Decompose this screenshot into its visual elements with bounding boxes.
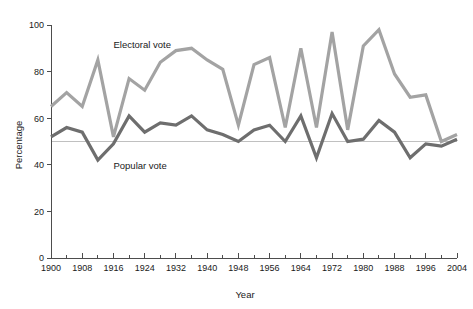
line-chart: 020406080100 190019081916192419321940194…: [0, 0, 473, 309]
x-axis: 1900190819161924193219401948195619641972…: [41, 253, 467, 273]
y-tick-label: 0: [39, 253, 44, 263]
series-label-electoral-vote: Electoral vote: [113, 39, 171, 50]
x-tick-label: 1908: [72, 263, 92, 273]
y-tick-label: 100: [29, 20, 44, 30]
x-axis-title: Year: [235, 289, 254, 300]
x-tick-label: 1916: [103, 263, 123, 273]
y-tick-label: 20: [34, 207, 44, 217]
x-tick-label: 2004: [447, 263, 467, 273]
y-tick-label: 40: [34, 160, 44, 170]
x-tick-label: 1956: [260, 263, 280, 273]
x-tick-label: 1996: [416, 263, 436, 273]
series-label-popular-vote: Popular vote: [113, 160, 166, 171]
x-tick-label: 1900: [41, 263, 61, 273]
x-tick-label: 1932: [166, 263, 186, 273]
y-axis-title: Percentage: [13, 121, 24, 170]
x-tick-label: 1988: [385, 263, 405, 273]
y-tick-label: 80: [34, 67, 44, 77]
x-tick-label: 1924: [135, 263, 155, 273]
data-series-group: [51, 30, 457, 160]
x-tick-label: 1964: [291, 263, 311, 273]
chart-container: 020406080100 190019081916192419321940194…: [0, 0, 473, 309]
x-tick-label: 1972: [322, 263, 342, 273]
y-axis: 020406080100: [29, 20, 51, 263]
x-tick-label: 1980: [353, 263, 373, 273]
x-tick-label: 1940: [197, 263, 217, 273]
x-tick-label: 1948: [228, 263, 248, 273]
y-tick-label: 60: [34, 114, 44, 124]
series-line-electoral-vote: [51, 30, 457, 142]
